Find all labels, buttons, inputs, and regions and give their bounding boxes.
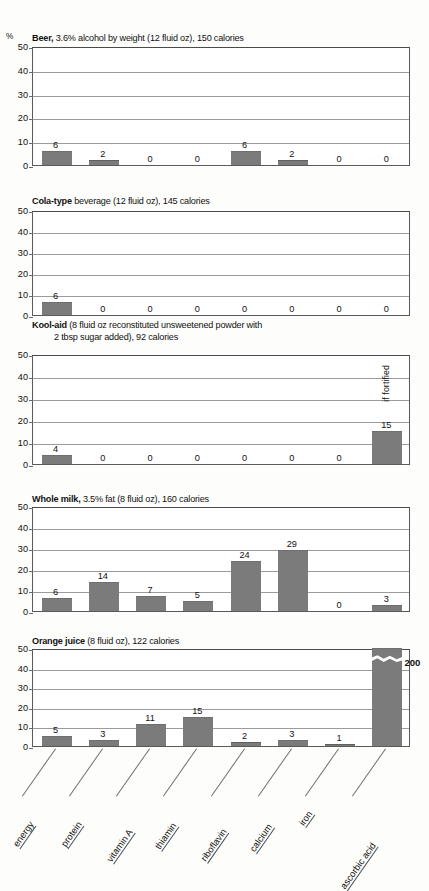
y-tick-mark-10 xyxy=(29,444,33,445)
chart-title-1: Cola-type beverage (12 fluid oz), 145 ca… xyxy=(32,196,210,208)
bar-value-label-2-0: 4 xyxy=(40,445,72,454)
bar-value-label-4-3: 15 xyxy=(181,707,213,716)
y-axis-tick-3-30: 30 xyxy=(0,545,28,554)
y-axis-tick-2-30: 30 xyxy=(0,395,28,404)
y-tick-mark-20 xyxy=(29,709,33,710)
y-axis-tick-4-20: 20 xyxy=(0,704,28,713)
y-tick-mark-0 xyxy=(29,613,33,614)
gridline-40 xyxy=(33,670,409,671)
gridline-30 xyxy=(33,400,409,401)
bar-value-label-4-6: 1 xyxy=(323,734,355,743)
gridline-30 xyxy=(33,689,409,690)
y-tick-mark-50 xyxy=(29,508,33,509)
plot-area-2 xyxy=(32,355,410,465)
bar-value-label-2-4: 0 xyxy=(229,454,261,463)
y-tick-mark-10 xyxy=(29,296,33,297)
bar-value-label-3-2: 7 xyxy=(134,586,166,595)
bar-value-label-0-3: 0 xyxy=(181,155,213,164)
bar-value-label-0-1: 2 xyxy=(87,150,119,159)
bar-2-7 xyxy=(372,431,402,464)
y-tick-mark-40 xyxy=(29,670,33,671)
y-axis-tick-1-40: 40 xyxy=(0,228,28,237)
y-axis-tick-2-10: 10 xyxy=(0,439,28,448)
gridline-10 xyxy=(33,143,409,144)
chart-title-rest-1: beverage (12 fluid oz), 145 calories xyxy=(72,196,210,206)
y-axis-tick-3-40: 40 xyxy=(0,524,28,533)
category-label-protein: protein xyxy=(59,819,84,849)
bar-value-label-0-0: 6 xyxy=(40,141,72,150)
bar-value-label-3-3: 5 xyxy=(181,591,213,600)
bar-4-2 xyxy=(136,724,166,746)
y-tick-mark-10 xyxy=(29,592,33,593)
bar-4-6 xyxy=(325,744,355,746)
leader-line-4 xyxy=(211,748,245,796)
chart-title-rest-3: 3.5% fat (8 fluid oz), 160 calories xyxy=(81,494,209,504)
y-tick-mark-0 xyxy=(29,466,33,467)
bar-0-5 xyxy=(278,160,308,165)
chart-title-2: Kool-aid (8 fluid oz reconstituted unswe… xyxy=(32,320,262,343)
bar-3-0 xyxy=(42,598,72,611)
bar-value-label-3-6: 0 xyxy=(323,601,355,610)
bar-3-4 xyxy=(231,561,261,611)
bar-3-3 xyxy=(183,601,213,612)
y-tick-mark-20 xyxy=(29,571,33,572)
y-axis-tick-0-10: 10 xyxy=(0,138,28,147)
bar-value-label-3-4: 24 xyxy=(229,551,261,560)
leader-line-5 xyxy=(258,748,292,796)
y-tick-mark-50 xyxy=(29,650,33,651)
y-tick-mark-30 xyxy=(29,550,33,551)
bar-value-label-1-5: 0 xyxy=(276,305,308,314)
y-tick-mark-50 xyxy=(29,212,33,213)
y-tick-mark-30 xyxy=(29,254,33,255)
y-tick-mark-50 xyxy=(29,356,33,357)
y-tick-mark-0 xyxy=(29,167,33,168)
chart-title-3: Whole milk, 3.5% fat (8 fluid oz), 160 c… xyxy=(32,494,209,506)
y-tick-mark-40 xyxy=(29,529,33,530)
category-label-energy: energy xyxy=(12,819,37,849)
bar-2-0 xyxy=(42,455,72,464)
category-label-calcium: calcium xyxy=(247,822,274,854)
y-axis-tick-2-40: 40 xyxy=(0,373,28,382)
y-axis-tick-3-0: 0 xyxy=(0,608,28,617)
plot-area-1 xyxy=(32,211,410,316)
bar-0-1 xyxy=(89,160,119,165)
y-axis-tick-4-10: 10 xyxy=(0,723,28,732)
bar-1-0 xyxy=(42,302,72,315)
bar-value-label-0-4: 6 xyxy=(229,141,261,150)
gridline-30 xyxy=(33,254,409,255)
leader-line-6 xyxy=(305,748,339,796)
y-tick-mark-0 xyxy=(29,748,33,749)
bar-value-label-2-3: 0 xyxy=(181,454,213,463)
chart-title-bold-2: Kool-aid xyxy=(32,320,67,330)
leader-line-2 xyxy=(116,748,150,796)
gridline-10 xyxy=(33,296,409,297)
y-axis-tick-0-0: 0 xyxy=(0,162,28,171)
y-axis-tick-1-10: 10 xyxy=(0,291,28,300)
bar-value-label-4-1: 3 xyxy=(87,730,119,739)
chart-title-rest-4: (8 fluid oz), 122 calories xyxy=(85,636,179,646)
y-tick-mark-20 xyxy=(29,275,33,276)
bar-3-1 xyxy=(89,582,119,611)
category-axis-labels: energyproteinvitamin Athiaminriboflavinc… xyxy=(0,0,429,136)
gridline-40 xyxy=(33,378,409,379)
bar-value-label-2-6: 0 xyxy=(323,454,355,463)
gridline-40 xyxy=(33,233,409,234)
bar-value-label-3-0: 6 xyxy=(40,588,72,597)
bar-value-label-1-3: 0 xyxy=(181,305,213,314)
chart-title-bold-4: Orange juice xyxy=(32,636,85,646)
bar-value-label-1-1: 0 xyxy=(87,305,119,314)
gridline-20 xyxy=(33,422,409,423)
leader-line-1 xyxy=(69,748,103,796)
y-axis-tick-1-50: 50 xyxy=(0,207,28,216)
bar-value-label-2-5: 0 xyxy=(276,454,308,463)
bar-value-label-4-0: 5 xyxy=(40,726,72,735)
bar-4-0 xyxy=(42,736,72,746)
y-axis-tick-1-0: 0 xyxy=(0,312,28,321)
bar-value-label-0-6: 0 xyxy=(323,155,355,164)
bar-0-0 xyxy=(42,151,72,165)
y-axis-tick-4-30: 30 xyxy=(0,684,28,693)
bar-value-label-0-7: 0 xyxy=(370,155,402,164)
chart-title-line2-2: 2 tbsp sugar added), 92 calories xyxy=(32,332,262,344)
bar-value-label-4-5: 3 xyxy=(276,730,308,739)
chart-title-bold-3: Whole milk, xyxy=(32,494,81,504)
